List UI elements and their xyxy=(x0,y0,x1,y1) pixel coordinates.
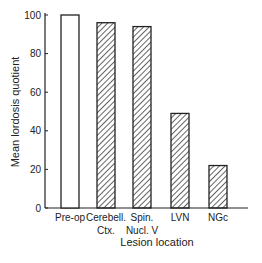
bar-lvn xyxy=(171,113,189,208)
bar-spin xyxy=(133,27,151,208)
bar-ngc xyxy=(209,166,227,208)
x-tick-label: Pre-op xyxy=(55,212,85,223)
x-tick-label: Cerebell. xyxy=(86,212,126,223)
y-tick-label: 40 xyxy=(30,125,42,136)
y-tick-label: 0 xyxy=(35,203,41,214)
x-tick-label-line2: Nucl. V xyxy=(126,225,159,236)
bar-chart: 020406080100 Pre-opCerebell.Ctx.Spin.Nuc… xyxy=(0,0,262,263)
y-tick-label: 80 xyxy=(30,48,42,59)
x-tick-label: Spin. xyxy=(131,212,154,223)
bar-cerebell xyxy=(97,23,115,208)
x-tick-label-line2: Ctx. xyxy=(97,225,115,236)
x-axis-title: Lesion location xyxy=(120,236,193,248)
y-axis-title: Mean lordosis quotient xyxy=(9,57,21,168)
x-tick-label: LVN xyxy=(171,212,190,223)
bar-pre-op xyxy=(61,15,79,208)
y-tick-label: 20 xyxy=(30,164,42,175)
y-tick-label: 100 xyxy=(24,10,41,21)
x-tick-label: NGc xyxy=(208,212,228,223)
y-tick-label: 60 xyxy=(30,87,42,98)
